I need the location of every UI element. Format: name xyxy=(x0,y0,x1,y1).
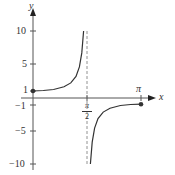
left-branch-curve xyxy=(33,31,84,91)
y-tick-label-1: 1 xyxy=(23,85,28,95)
x-tick-label-pi-half: π 2 xyxy=(82,102,92,121)
y-tick-label-neg10: −10 xyxy=(9,159,25,169)
y-tick-label-10: 10 xyxy=(16,26,26,36)
endpoint-end xyxy=(139,102,144,107)
endpoint-start xyxy=(31,89,36,94)
y-tick-label-neg1: −1 xyxy=(15,101,26,111)
x-axis-label: x xyxy=(159,92,163,102)
y-axis-label: y xyxy=(29,1,33,11)
x-tick-label-pi: π xyxy=(136,84,141,94)
y-tick-label-neg5: −5 xyxy=(15,126,26,136)
sec-function-graph: y x 10 5 1 −1 −5 −10 π π 2 xyxy=(0,0,175,175)
y-tick-label-5: 5 xyxy=(22,59,27,69)
right-branch-curve xyxy=(90,104,141,164)
pi-half-numerator: π xyxy=(85,101,89,110)
x-axis-arrow-icon xyxy=(148,95,156,101)
pi-half-denominator: 2 xyxy=(85,112,89,121)
